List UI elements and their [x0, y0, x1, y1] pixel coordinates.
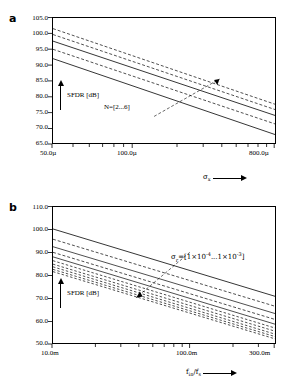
panel-a-x-axis-label: σx	[203, 173, 211, 183]
panel-b-y-axis-label: SFDR [dB]	[67, 289, 99, 297]
panel-b-x-axis-caption: fin/fs	[186, 368, 237, 378]
panel-a-ytick-70: 70.0	[8, 124, 48, 131]
panel-a-annotation: N=[2...6]	[104, 103, 130, 111]
panel-a-ytick-85: 85.0	[8, 77, 48, 84]
panel-b-ytick-80: 80.0	[8, 272, 48, 279]
panel-a-ytick-75: 75.0	[8, 109, 48, 116]
panel-b-x-axis-label: fin/fs	[186, 368, 201, 378]
panel-a-ytick-65: 65.0	[8, 140, 48, 147]
figure-root: a 105.0 100.0 95.0 90.0 85.0 80.0 75.0 7…	[0, 0, 285, 385]
panel-b-curves	[53, 207, 275, 343]
right-arrow-icon	[203, 370, 237, 377]
panel-a-ytick-95: 95.0	[8, 46, 48, 53]
up-arrow-icon	[57, 278, 64, 308]
panel-b-ytick-110: 110.0	[8, 204, 48, 211]
panel-b-xtick-100m: 100.0m	[176, 350, 197, 357]
panel-b-ytick-100: 100.0	[8, 226, 48, 233]
annotation-arrowhead	[136, 292, 142, 298]
panel-a-xtick-800u: 800.0µ	[249, 150, 269, 157]
panel-a: a 105.0 100.0 95.0 90.0 85.0 80.0 75.0 7…	[0, 0, 285, 192]
panel-a-ytick-90: 90.0	[8, 62, 48, 69]
panel-b-annotation: σr=[1×10-4...1×10-3]	[171, 250, 244, 264]
right-arrow-icon	[213, 175, 247, 182]
panel-a-xtick-50u: 50.0µ	[40, 150, 56, 157]
panel-a-ytick-80: 80.0	[8, 93, 48, 100]
panel-b: b 110.0 100.0 90.0 80.0 70.0 60.0 50.0	[0, 192, 285, 385]
panel-b-y-axis-caption: SFDR [dB]	[57, 278, 99, 308]
panel-a-ytick-100: 100.0	[8, 30, 48, 37]
panel-a-y-axis-caption: SFDR [dB]	[57, 80, 99, 110]
panel-b-ytick-70: 70.0	[8, 295, 48, 302]
panel-b-plot-area	[52, 206, 276, 344]
panel-b-xtick-10m: 10.0m	[41, 350, 59, 357]
panel-a-x-axis-caption: σx	[203, 173, 247, 183]
panel-a-ytick-105: 105.0	[8, 15, 48, 22]
panel-a-y-axis-label: SFDR [dB]	[67, 91, 99, 99]
panel-b-ytick-50: 50.0	[8, 340, 48, 347]
panel-b-xtick-300m: 300.0m	[249, 350, 270, 357]
panel-a-xtick-100u: 100.0µ	[117, 150, 137, 157]
annotation-leader-line	[154, 79, 219, 116]
panel-b-ytick-90: 90.0	[8, 249, 48, 256]
up-arrow-icon	[57, 80, 64, 110]
panel-b-ytick-60: 60.0	[8, 318, 48, 325]
